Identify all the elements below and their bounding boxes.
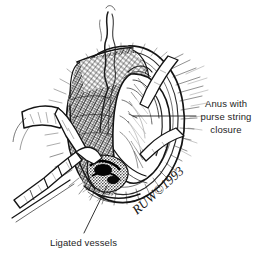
label-anus-line-1: Anus with bbox=[188, 97, 264, 110]
label-ligated-vessels: Ligated vessels bbox=[50, 236, 117, 249]
label-anus-with-purse-string-closure: Anus with purse string closure bbox=[188, 97, 264, 136]
illustration-page: RUW©1993 Anus with purse string closure … bbox=[0, 0, 266, 265]
label-ligated-line-1: Ligated vessels bbox=[50, 236, 117, 249]
label-anus-line-2: purse string bbox=[188, 110, 264, 123]
label-anus-line-3: closure bbox=[188, 123, 264, 136]
